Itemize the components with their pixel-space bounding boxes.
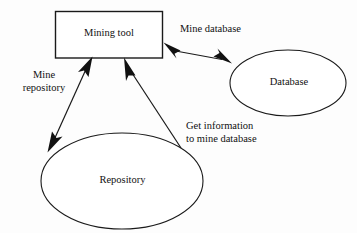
- edge-get-information-label-line-2: to mine database: [186, 133, 296, 146]
- edge-mine-repository-label-line-1: Mine: [8, 69, 80, 82]
- edge-mine-database-label-line-1: Mine database: [180, 23, 280, 36]
- edge-get-information-arrowhead: [124, 58, 136, 82]
- edge-mine-repository-label-line-2: repository: [8, 82, 80, 95]
- node-database-shape[interactable]: [230, 50, 346, 116]
- edge-get-information-label: Get information to mine database: [186, 120, 296, 145]
- edge-mine-database-label: Mine database: [180, 23, 280, 36]
- edge-mine-database[interactable]: [164, 43, 233, 64]
- edge-mine-database-line: [173, 51, 222, 60]
- edge-mine-database-arrowhead-end: [214, 49, 233, 64]
- diagram-shapes-layer: [0, 0, 357, 233]
- edge-mine-repository-arrowhead-top: [78, 57, 93, 78]
- edge-get-information-label-line-1: Get information: [186, 120, 296, 133]
- node-mining-tool-shape[interactable]: [56, 12, 163, 59]
- diagram-canvas: Mining tool Database Repository Mine dat…: [0, 0, 357, 233]
- edge-mine-database-arrowhead-start: [164, 43, 181, 59]
- node-repository-shape[interactable]: [41, 133, 203, 229]
- edge-mine-repository-label: Mine repository: [8, 69, 80, 94]
